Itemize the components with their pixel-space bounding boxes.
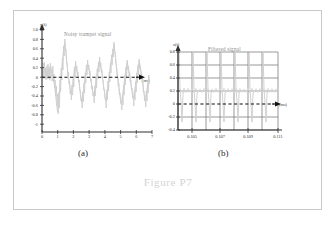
panel-b-xtick-1: 0.107 [208,134,232,139]
panel-a-xtick-4: 4 [99,134,111,139]
panel-a-ytick-9: -0.8 [22,112,38,117]
panel-b-ytick-4: 0 [158,101,175,106]
figure-page: y(t) Noisy trumpet signal (ms) [0,0,336,227]
panel-a-ytick-3: 0.4 [22,56,38,61]
panel-a-y-arrow-head [39,24,44,30]
panel-b-ytick-0: 0.8 [158,49,175,54]
panel-a-ytick-4: 0.2 [22,65,38,70]
panel-b-ytick-3: 0.2 [158,88,175,93]
figure-caption: Figure P7 [0,176,336,188]
panel-b-ytick-1: 0.6 [158,62,175,67]
panel-a-xtick-6: 6 [130,134,142,139]
panel-a-xtick-7: 7 [146,134,158,139]
panel-b-ytick-6: -0.4 [158,127,175,132]
panel-b-subcaption: (b) [218,148,229,158]
panel-a-ytick-10: -1 [22,122,38,127]
panel-a-xtick-1: 1 [52,134,64,139]
panel-a-plot-area [26,22,156,147]
panel-b-plot-area [160,42,292,147]
plot-panel-b: z(t) Filtered signal (ms) [160,42,292,147]
panel-a-ytick-2: 0.6 [22,46,38,51]
panel-b-ytick-5: -0.2 [158,114,175,119]
panel-a-svg [26,22,156,147]
panel-a-ytick-1: 0.8 [22,37,38,42]
panel-a-ytick-8: -0.6 [22,103,38,108]
panel-b-xtick-0: 0.105 [180,134,204,139]
panel-a-ytick-6: -0.2 [22,84,38,89]
panel-b-ytick-2: 0.4 [158,75,175,80]
panel-a-xtick-5: 5 [115,134,127,139]
panel-a-xtick-2: 2 [67,134,79,139]
panel-b-svg [160,42,292,147]
panel-a-xtick-0: 0 [36,134,48,139]
panel-a-subcaption: (a) [78,148,88,158]
panel-a-ytick-0: 1.0 [22,27,38,32]
panel-a-signal-trace-2 [42,39,149,114]
panel-a-ytick-5: 0 [22,75,38,80]
panel-b-y-arrow-head [175,45,180,51]
panel-a-ytick-7: -0.4 [22,93,38,98]
plot-panel-a: y(t) Noisy trumpet signal (ms) [26,22,156,147]
panel-b-signal-trace [178,52,278,122]
panel-b-xtick-2: 0.109 [236,134,260,139]
panel-a-xtick-3: 3 [83,134,95,139]
panel-b-xtick-3: 0.111 [266,134,290,139]
